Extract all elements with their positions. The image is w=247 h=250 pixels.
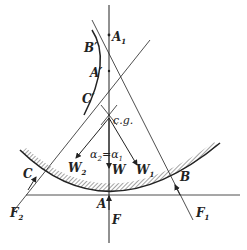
label-alpha: α2=α1 bbox=[90, 148, 123, 163]
point-a1 bbox=[108, 34, 111, 37]
f1-arrow bbox=[175, 185, 180, 195]
label-w1: W1 bbox=[136, 163, 154, 179]
force-diagram: A1 B′ A′ C′ c.g. α2=α1 W2 W W1 C B A F2 … bbox=[0, 0, 247, 250]
point-a-prime bbox=[108, 70, 110, 72]
label-cg: c.g. bbox=[113, 114, 133, 127]
label-w: W bbox=[112, 163, 127, 177]
label-f2: F2 bbox=[9, 206, 24, 222]
label-c: C bbox=[23, 167, 33, 181]
label-c-prime: C′ bbox=[82, 92, 96, 106]
label-a-prime: A′ bbox=[89, 66, 103, 80]
label-b-prime: B′ bbox=[83, 41, 98, 55]
label-b: B bbox=[179, 170, 190, 184]
label-w2: W2 bbox=[68, 161, 86, 177]
label-f1: F1 bbox=[195, 206, 209, 222]
label-f: F bbox=[111, 213, 122, 227]
label-a: A bbox=[96, 197, 106, 211]
label-a1: A1 bbox=[111, 30, 126, 46]
